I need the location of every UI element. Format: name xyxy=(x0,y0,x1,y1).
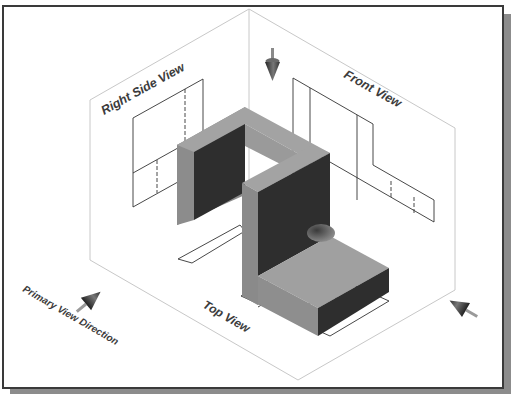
top-view-label: Top View xyxy=(201,297,253,335)
right-side-view-label: Right Side View xyxy=(99,60,189,118)
right-side-view-direction-arrow-icon xyxy=(446,294,482,324)
front-view-label: Front View xyxy=(342,67,405,111)
glass-box-diagram: Right Side View Front View Top View Prim… xyxy=(0,0,511,394)
primary-view-direction-label: Primary View Direction xyxy=(21,283,121,347)
top-view-direction-arrow-icon xyxy=(265,48,280,81)
